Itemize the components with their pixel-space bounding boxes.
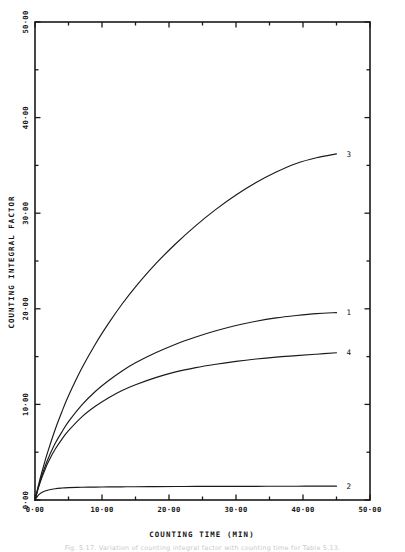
- x-tick-label-2: 20·00: [157, 505, 180, 514]
- figure-panel: 0·0010·0020·0030·0040·0050·00 0·0010·002…: [0, 0, 405, 552]
- curve-label-4: 4: [347, 348, 352, 357]
- x-tick-label-3: 30·00: [224, 505, 247, 514]
- curve-3: [35, 154, 337, 500]
- x-axis-tick-labels: 0·0010·0020·0030·0040·0050·00: [26, 505, 382, 514]
- y-axis-title: COUNTING INTEGRAL FACTOR: [7, 195, 16, 328]
- x-tick-label-4: 40·00: [291, 505, 314, 514]
- y-tick-label-3: 30·00: [21, 202, 30, 225]
- x-tick-label-5: 50·00: [358, 505, 381, 514]
- curve-end-labels: 1234: [347, 150, 352, 491]
- x-axis-title: COUNTING TIME (MIN): [149, 530, 254, 539]
- chart-canvas: 0·0010·0020·0030·0040·0050·00 0·0010·002…: [0, 0, 405, 552]
- curve-1: [35, 313, 337, 500]
- y-tick-label-5: 50·00: [21, 10, 30, 33]
- figure-caption: Fig. 5.17. Variation of counting integra…: [0, 544, 405, 552]
- curve-label-2: 2: [347, 482, 352, 491]
- curve-4: [35, 353, 337, 500]
- y-tick-label-0: 0·00: [21, 491, 30, 510]
- y-tick-label-1: 10·00: [21, 393, 30, 416]
- plot-frame: [35, 22, 370, 500]
- y-axis-tick-labels: 0·0010·0020·0030·0040·0050·00: [21, 10, 30, 509]
- curve-label-1: 1: [347, 308, 352, 317]
- data-curves: [35, 154, 337, 500]
- curve-2: [35, 486, 337, 500]
- x-tick-label-1: 10·00: [90, 505, 113, 514]
- y-tick-label-2: 20·00: [21, 297, 30, 320]
- tick-marks: [35, 22, 370, 500]
- curve-label-3: 3: [347, 150, 352, 159]
- y-tick-label-4: 40·00: [21, 106, 30, 129]
